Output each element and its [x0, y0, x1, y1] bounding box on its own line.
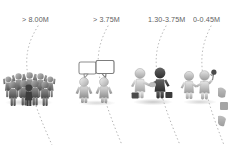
- handshake-deal-icon: [129, 64, 177, 106]
- handshake-hands: [149, 82, 156, 87]
- flower-icon: [210, 70, 217, 80]
- speech-bubble-right: [96, 61, 114, 79]
- briefcase-left: [132, 92, 139, 98]
- two-people-talking-icon: [73, 60, 121, 106]
- segment-label-1: > 8.00M: [22, 15, 49, 24]
- briefcase-right: [165, 92, 172, 98]
- segment-label-4: 0-0.45M: [193, 15, 220, 24]
- cropped-figure-sliver: [218, 86, 228, 132]
- diagram-canvas: > 8.00M > 3.75M 1.30-3.75M 0-0.45M: [0, 0, 228, 145]
- speech-bubble-left: [79, 62, 96, 78]
- crowd-of-people-icon: [1, 66, 57, 106]
- segment-label-3: 1.30-3.75M: [148, 15, 185, 24]
- segment-label-2: > 3.75M: [93, 15, 120, 24]
